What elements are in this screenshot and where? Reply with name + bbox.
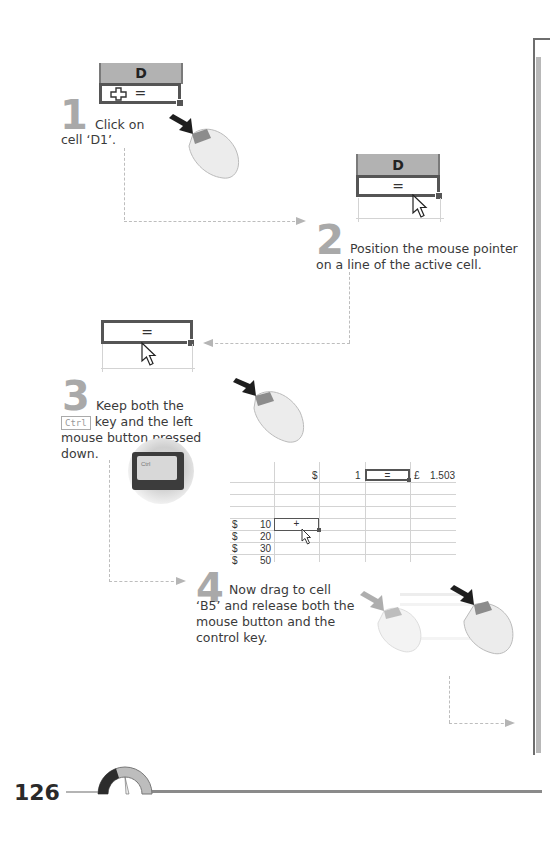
step3-text-line2-rest: key and the left	[95, 414, 193, 429]
sheet-row1-result: 1.503	[430, 470, 455, 482]
step4-text-line2: ‘B5’ and release both the	[196, 598, 354, 614]
sheet-row1-pound: £	[414, 470, 420, 482]
connector-3-4-vertical	[109, 460, 110, 582]
grid-line	[410, 462, 411, 562]
connector-4-next-vertical	[449, 676, 450, 723]
sheet-row-value: 30	[260, 543, 271, 555]
step2-number: 2	[316, 220, 342, 260]
ctrl-key-icon: Ctrl	[132, 452, 184, 490]
grid-line	[230, 506, 456, 507]
fill-handle	[187, 339, 195, 347]
active-cell-d1: =	[99, 83, 181, 104]
connector-4-next-horizontal	[449, 723, 509, 724]
spreadsheet-excerpt: $ 1 = £ 1.503 + $ 10 $ 20 $ 30 $ 50	[230, 470, 456, 570]
ctrl-key-label: Ctrl	[61, 416, 91, 430]
step3-text-line4: down.	[61, 446, 99, 462]
step3-cell-figure: =	[99, 320, 199, 380]
ctrl-key-photo: Ctrl	[128, 438, 194, 504]
arrow-right-icon	[505, 719, 515, 727]
grid-line	[319, 462, 320, 562]
step3-text-line1: Keep both the	[96, 398, 184, 414]
connector-2-3-vertical	[349, 272, 350, 343]
sheet-row-currency: $	[232, 519, 238, 531]
sheet-row-currency: $	[232, 531, 238, 543]
arrow-pointer-icon	[301, 528, 313, 546]
connector-1-2-vertical	[124, 148, 125, 220]
step1-number: 1	[60, 95, 86, 135]
arrow-left-icon	[203, 339, 213, 347]
step1-text-line1: Click on	[95, 117, 144, 133]
ctrl-key-cap: Ctrl	[137, 456, 177, 480]
grid-line	[101, 368, 195, 369]
step2-cell-figure: D =	[352, 154, 448, 224]
step2-text-line1: Position the mouse pointer	[350, 241, 518, 257]
fill-handle	[317, 528, 321, 532]
connector-1-2-horizontal	[124, 221, 300, 222]
step4-text-line1: Now drag to cell	[229, 582, 331, 598]
fill-handle	[407, 478, 411, 482]
active-cell: =	[101, 320, 193, 344]
sheet-row1-currency: $	[312, 470, 318, 482]
mouse-drag-icon	[360, 585, 520, 665]
arrow-pointer-icon	[141, 342, 159, 368]
page-border-bar	[536, 57, 541, 753]
step1-text-line2: cell ‘D1’.	[61, 132, 116, 148]
fill-handle	[435, 192, 443, 200]
cross-cursor-icon	[110, 87, 128, 101]
column-header-d: D	[99, 63, 183, 84]
grid-line	[440, 198, 441, 222]
grid-line	[356, 218, 444, 219]
grid-line	[358, 198, 359, 222]
arrow-right-icon	[296, 217, 306, 225]
sheet-row-value: 20	[260, 531, 271, 543]
sheet-row-currency: $	[232, 555, 238, 567]
mouse-icon	[232, 372, 312, 447]
fill-handle	[176, 99, 184, 107]
grid-line	[274, 462, 275, 562]
sheet-row1-active-cell: =	[365, 469, 410, 481]
arrow-right-icon	[176, 577, 186, 585]
grid-line	[230, 482, 456, 483]
step4-text-line3: mouse button and the	[196, 614, 335, 630]
footer-rule	[150, 790, 542, 793]
sheet-row-currency: $	[232, 543, 238, 555]
step3-text-line2: Ctrl key and the left	[61, 414, 193, 430]
column-header-d: D	[356, 154, 440, 176]
sheet-row-value: 50	[260, 555, 271, 567]
footer-rule-left	[66, 791, 100, 793]
step2-text-line2: on a line of the active cell.	[316, 257, 482, 273]
connector-2-3-horizontal	[205, 343, 350, 344]
grid-line	[192, 344, 193, 372]
step3-number: 3	[62, 376, 88, 416]
sheet-row-value: 10	[260, 519, 271, 531]
cell-content: =	[134, 85, 146, 101]
grid-line	[230, 494, 456, 495]
speedometer-icon	[96, 763, 154, 795]
page-border-right	[533, 38, 535, 755]
grid-line	[102, 344, 103, 372]
step1-cell-figure: D =	[99, 63, 183, 107]
step4-text-line4: control key.	[196, 630, 267, 646]
page-border-top	[533, 38, 550, 40]
page-number: 126	[14, 780, 60, 805]
arrow-pointer-icon	[412, 194, 430, 220]
sheet-row1-value: 1	[355, 470, 361, 482]
connector-3-4-horizontal	[109, 581, 179, 582]
mouse-icon	[165, 108, 245, 183]
